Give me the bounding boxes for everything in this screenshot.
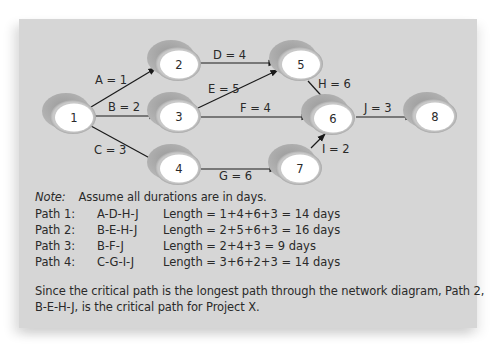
- path-name: Path 3:: [35, 239, 75, 253]
- path-length: Length = 2+4+3 = 9 days: [163, 239, 316, 253]
- edge-label-I: I = 2: [322, 142, 350, 156]
- note: Note: Assume all durations are in days.: [35, 190, 267, 204]
- node-label: 7: [296, 162, 303, 176]
- node-5: 5: [269, 40, 323, 81]
- edge-label-G: G = 6: [219, 169, 252, 183]
- path-sequence: A-D-H-J: [97, 207, 139, 221]
- conclusion-line-2: B-E-H-J, is the critical path for Projec…: [35, 299, 484, 315]
- edge-label-D: D = 4: [213, 48, 246, 62]
- edge-label-J: J = 3: [363, 101, 392, 115]
- edge-label-A: A = 1: [95, 73, 127, 87]
- node-3: 3: [147, 92, 201, 133]
- path-sequence: B-F-J: [97, 239, 124, 253]
- node-label: 2: [175, 58, 182, 72]
- node-label: 8: [431, 110, 438, 124]
- node-6: 6: [301, 94, 355, 135]
- path-name: Path 1:: [35, 207, 75, 221]
- node-2: 2: [147, 40, 201, 81]
- node-label: 4: [175, 162, 182, 176]
- path-sequence: C-G-I-J: [97, 255, 134, 269]
- edge-label-E: E = 5: [208, 82, 240, 96]
- edge-label-F: F = 4: [240, 101, 271, 115]
- path-length: Length = 1+4+6+3 = 14 days: [163, 207, 340, 221]
- edge-label-H: H = 6: [318, 77, 351, 91]
- conclusion: Since the critical path is the longest p…: [35, 283, 484, 315]
- path-sequence: B-E-H-J: [97, 223, 137, 237]
- edge-label-C: C = 3: [94, 143, 126, 157]
- node-1: 1: [42, 93, 96, 134]
- path-length: Length = 3+6+2+3 = 14 days: [163, 255, 340, 269]
- node-8: 8: [403, 92, 457, 133]
- note-text: Assume all durations are in days.: [79, 190, 267, 204]
- note-label: Note:: [35, 190, 75, 204]
- path-name: Path 4:: [35, 255, 75, 269]
- node-label: 1: [70, 111, 77, 125]
- path-length: Length = 2+5+6+3 = 16 days: [163, 223, 340, 237]
- node-label: 5: [297, 58, 304, 72]
- node-7: 7: [268, 144, 322, 185]
- node-label: 6: [329, 112, 336, 126]
- edge-label-B: B = 2: [108, 100, 140, 114]
- path-name: Path 2:: [35, 223, 75, 237]
- node-label: 3: [175, 110, 182, 124]
- conclusion-line-1: Since the critical path is the longest p…: [35, 283, 484, 299]
- node-4: 4: [147, 144, 201, 185]
